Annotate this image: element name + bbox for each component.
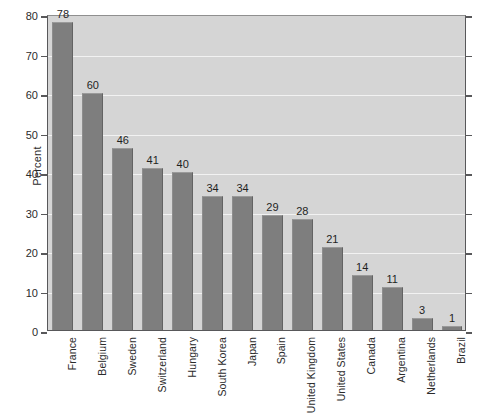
bar-series: 78604641403434292821141131 bbox=[48, 16, 465, 330]
bar bbox=[142, 168, 163, 330]
y-tick-mark-right bbox=[466, 135, 472, 137]
bar-value-label: 60 bbox=[87, 79, 99, 91]
y-tick-label: 20 bbox=[26, 247, 38, 259]
bar-group: 34 bbox=[232, 16, 253, 330]
bar-group: 41 bbox=[142, 16, 163, 330]
bar bbox=[202, 196, 223, 330]
bar bbox=[322, 247, 343, 330]
bar bbox=[352, 275, 373, 330]
y-tick-mark bbox=[41, 293, 47, 295]
bar-group: 40 bbox=[172, 16, 193, 330]
bar-value-label: 1 bbox=[449, 312, 455, 324]
bar-group: 14 bbox=[352, 16, 373, 330]
bar bbox=[262, 215, 283, 330]
x-tick-label: Canada bbox=[365, 337, 377, 374]
bar-value-label: 21 bbox=[326, 233, 338, 245]
bar-group: 78 bbox=[52, 16, 73, 330]
bar-value-label: 11 bbox=[386, 273, 397, 285]
y-tick-mark-right bbox=[466, 214, 472, 216]
y-tick-mark bbox=[41, 95, 47, 97]
bar-value-label: 14 bbox=[356, 261, 368, 273]
bar-group: 21 bbox=[322, 16, 343, 330]
y-tick-mark-right bbox=[466, 253, 472, 255]
plot-area: 01020304050607080 7860464140343429282114… bbox=[47, 15, 466, 331]
bar-group: 28 bbox=[292, 16, 313, 330]
x-tick-label: Argentina bbox=[395, 337, 407, 383]
y-tick-label: 30 bbox=[26, 208, 38, 220]
y-tick-mark-right bbox=[466, 16, 472, 18]
bar-value-label: 34 bbox=[206, 182, 218, 194]
x-tick-label-wrap: Argentina bbox=[395, 337, 407, 383]
x-tick-label-wrap: Hungary bbox=[186, 337, 198, 377]
x-tick-label: United Kingdom bbox=[305, 337, 317, 413]
bar-value-label: 28 bbox=[296, 205, 308, 217]
x-tick-label: Sweden bbox=[126, 337, 138, 376]
bar-group: 60 bbox=[82, 16, 103, 330]
bar bbox=[52, 22, 73, 330]
x-tick-label-wrap: Belgium bbox=[96, 337, 108, 376]
bar-value-label: 41 bbox=[147, 154, 159, 166]
bar-value-label: 34 bbox=[236, 182, 248, 194]
bar-value-label: 78 bbox=[57, 8, 69, 20]
bar-group: 11 bbox=[382, 16, 403, 330]
bar-value-label: 40 bbox=[177, 158, 189, 170]
bar bbox=[232, 196, 253, 330]
x-tick-label: Japan bbox=[246, 337, 258, 366]
y-tick-label: 40 bbox=[26, 168, 38, 180]
y-tick-mark bbox=[41, 174, 47, 176]
bar bbox=[292, 219, 313, 330]
x-tick-label: Switzerland bbox=[156, 337, 168, 392]
x-tick-label-wrap: Sweden bbox=[126, 337, 138, 376]
x-tick-label-wrap: Netherlands bbox=[425, 337, 437, 395]
x-tick-label: Brazil bbox=[455, 337, 467, 364]
bar bbox=[412, 318, 433, 330]
bar bbox=[112, 148, 133, 330]
x-tick-label: Spain bbox=[275, 337, 287, 364]
bar bbox=[382, 287, 403, 330]
bar bbox=[82, 93, 103, 330]
x-tick-label: Belgium bbox=[96, 337, 108, 376]
bar-group: 46 bbox=[112, 16, 133, 330]
x-tick-label-wrap: Spain bbox=[275, 337, 287, 364]
x-tick-label: Netherlands bbox=[425, 337, 437, 395]
bar bbox=[442, 326, 463, 330]
y-tick-mark bbox=[41, 214, 47, 216]
x-tick-label-wrap: Brazil bbox=[455, 337, 467, 364]
bar-value-label: 29 bbox=[266, 201, 278, 213]
bar-group: 34 bbox=[202, 16, 223, 330]
y-tick-mark-right bbox=[466, 293, 472, 295]
x-tick-label-wrap: Canada bbox=[365, 337, 377, 374]
y-tick-label: 70 bbox=[26, 50, 38, 62]
x-tick-label-wrap: Japan bbox=[246, 337, 258, 366]
y-tick-mark bbox=[41, 56, 47, 58]
y-tick-label: 10 bbox=[26, 287, 38, 299]
x-tick-label-wrap: South Korea bbox=[216, 337, 228, 396]
bar-group: 1 bbox=[442, 16, 463, 330]
y-tick-mark-right bbox=[466, 95, 472, 97]
bar-group: 29 bbox=[262, 16, 283, 330]
y-tick-mark bbox=[41, 332, 47, 334]
bar bbox=[172, 172, 193, 330]
y-tick-label: 0 bbox=[32, 326, 38, 338]
x-tick-label-wrap: France bbox=[66, 337, 78, 370]
x-tick-label-wrap: United Kingdom bbox=[305, 337, 317, 413]
x-tick-label: South Korea bbox=[216, 337, 228, 396]
x-tick-label-wrap: Switzerland bbox=[156, 337, 168, 392]
y-tick-mark-right bbox=[466, 332, 472, 334]
x-tick-label-wrap: United States bbox=[335, 337, 347, 401]
x-tick-label: Hungary bbox=[186, 337, 198, 377]
y-tick-mark bbox=[41, 16, 47, 18]
y-tick-label: 80 bbox=[26, 10, 38, 22]
bar-group: 3 bbox=[412, 16, 433, 330]
y-tick-label: 50 bbox=[26, 129, 38, 141]
y-tick-mark bbox=[41, 253, 47, 255]
y-tick-mark bbox=[41, 135, 47, 137]
x-tick-label: France bbox=[66, 337, 78, 370]
bar-chart-figure: Percent 01020304050607080 78604641403434… bbox=[0, 0, 480, 415]
bar-value-label: 46 bbox=[117, 134, 129, 146]
y-tick-label: 60 bbox=[26, 89, 38, 101]
x-tick-label: United States bbox=[335, 337, 347, 401]
y-tick-mark-right bbox=[466, 56, 472, 58]
y-tick-mark-right bbox=[466, 174, 472, 176]
bar-value-label: 3 bbox=[419, 304, 425, 316]
